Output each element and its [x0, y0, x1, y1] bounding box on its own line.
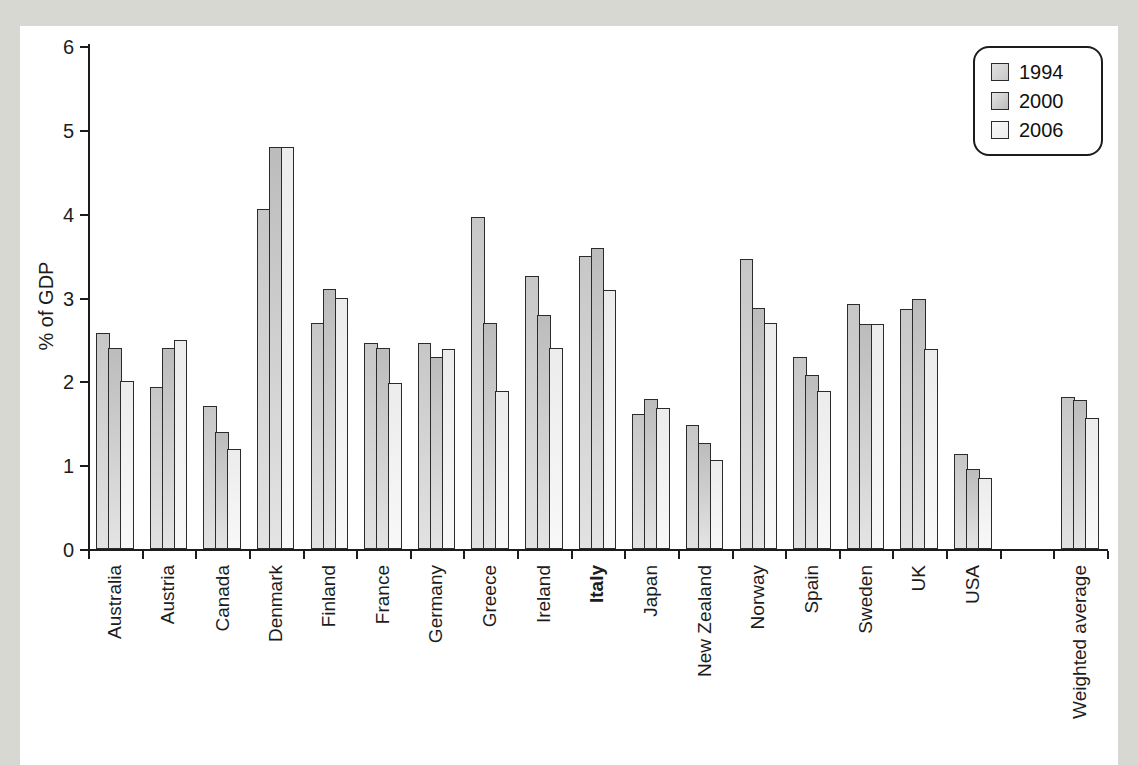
x-category-label-france: France — [372, 565, 394, 624]
x-category-label-uk: UK — [908, 565, 930, 591]
y-tick-label: 3 — [40, 289, 74, 309]
x-tick — [946, 551, 948, 559]
x-category-label-greece: Greece — [479, 565, 501, 627]
bar-usa-2006 — [978, 478, 992, 549]
y-tick — [80, 214, 88, 216]
x-tick — [1053, 551, 1055, 559]
y-tick — [80, 465, 88, 467]
bar-australia-2006 — [120, 381, 134, 549]
y-tick-label: 0 — [40, 540, 74, 560]
x-category-label-norway: Norway — [747, 565, 769, 629]
bar-weighted-average-2006 — [1085, 418, 1099, 549]
bar-canada-2006 — [227, 449, 241, 549]
x-tick — [303, 551, 305, 559]
y-tick-label: 5 — [40, 121, 74, 141]
bar-germany-2006 — [442, 349, 456, 549]
x-category-label-weighted-average: Weighted average — [1069, 565, 1091, 719]
x-category-label-canada: Canada — [211, 565, 233, 632]
bar-ireland-2006 — [549, 348, 563, 549]
y-axis-line — [88, 44, 90, 551]
legend-label-2006: 2006 — [1019, 118, 1064, 142]
chart-panel: % of GDP 1994 2000 2006 0123456Australia… — [20, 26, 1118, 765]
legend-item-1994: 1994 — [991, 60, 1087, 84]
x-tick — [892, 551, 894, 559]
x-tick — [571, 551, 573, 559]
bar-norway-2006 — [764, 323, 778, 549]
x-category-label-sweden: Sweden — [855, 565, 877, 634]
x-tick — [88, 551, 90, 559]
x-category-label-new-zealand: New Zealand — [694, 565, 716, 677]
x-category-label-germany: Germany — [426, 565, 448, 643]
x-tick — [1107, 551, 1109, 559]
bar-greece-2006 — [495, 391, 509, 549]
x-axis-line — [88, 549, 1108, 551]
y-tick-label: 6 — [40, 37, 74, 57]
x-tick — [195, 551, 197, 559]
x-category-label-japan: Japan — [640, 565, 662, 617]
x-category-label-denmark: Denmark — [265, 565, 287, 642]
x-tick — [1000, 551, 1002, 559]
y-tick — [80, 298, 88, 300]
x-tick — [785, 551, 787, 559]
x-category-label-ireland: Ireland — [533, 565, 555, 623]
x-tick — [356, 551, 358, 559]
y-tick — [80, 130, 88, 132]
x-category-label-usa: USA — [962, 565, 984, 604]
x-tick — [249, 551, 251, 559]
chart-area: % of GDP 1994 2000 2006 0123456Australia… — [20, 26, 1118, 765]
x-tick — [410, 551, 412, 559]
bar-sweden-2006 — [871, 324, 885, 549]
x-tick — [624, 551, 626, 559]
bar-finland-2006 — [335, 298, 349, 550]
bar-france-2006 — [388, 383, 402, 549]
y-tick — [80, 549, 88, 551]
x-tick — [463, 551, 465, 559]
legend-label-2000: 2000 — [1019, 89, 1064, 113]
y-tick-label: 1 — [40, 456, 74, 476]
x-category-label-australia: Australia — [104, 565, 126, 639]
bar-japan-2006 — [656, 408, 670, 549]
x-category-label-austria: Austria — [157, 565, 179, 624]
legend-label-1994: 1994 — [1019, 60, 1064, 84]
x-category-label-italy: Italy — [587, 565, 609, 603]
bar-italy-2006 — [603, 290, 617, 549]
legend-swatch-2000 — [991, 92, 1009, 110]
y-tick-label: 4 — [40, 205, 74, 225]
y-tick-label: 2 — [40, 372, 74, 392]
legend-item-2006: 2006 — [991, 118, 1087, 142]
bar-austria-2006 — [174, 340, 188, 549]
legend: 1994 2000 2006 — [973, 46, 1103, 156]
x-tick — [142, 551, 144, 559]
x-category-label-finland: Finland — [318, 565, 340, 627]
x-category-label-spain: Spain — [801, 565, 823, 614]
bar-new-zealand-2006 — [710, 460, 724, 549]
y-tick — [80, 381, 88, 383]
legend-swatch-1994 — [991, 63, 1009, 81]
x-tick — [839, 551, 841, 559]
bar-spain-2006 — [817, 391, 831, 549]
y-tick — [80, 46, 88, 48]
legend-item-2000: 2000 — [991, 89, 1087, 113]
bar-uk-2006 — [924, 349, 938, 549]
x-tick — [517, 551, 519, 559]
bar-denmark-2006 — [281, 147, 295, 549]
x-tick — [732, 551, 734, 559]
x-tick — [678, 551, 680, 559]
legend-swatch-2006 — [991, 121, 1009, 139]
